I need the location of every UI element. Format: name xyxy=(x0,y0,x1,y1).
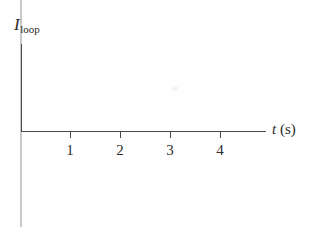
x-axis-tick-label-4: 4 xyxy=(209,141,231,159)
y-axis-label-symbol: I xyxy=(14,15,20,34)
x-axis-tick-3 xyxy=(170,131,171,138)
scan-speckle-artifact xyxy=(172,86,178,91)
x-axis-tick-label-1: 1 xyxy=(59,141,81,159)
x-axis-label-unit: (s) xyxy=(280,121,296,137)
y-axis-label-subscript: loop xyxy=(20,23,40,35)
x-axis-tick-2 xyxy=(120,131,121,138)
x-axis-tick-4 xyxy=(220,131,221,138)
x-axis-label-symbol: t xyxy=(272,121,276,137)
y-axis-line xyxy=(21,44,22,132)
x-axis-tick-label-2: 2 xyxy=(109,141,131,159)
x-axis-label: t (s) xyxy=(272,120,296,138)
y-axis-label: Iloop xyxy=(14,17,39,34)
x-axis-tick-1 xyxy=(70,131,71,138)
x-axis-line xyxy=(21,131,266,132)
figure-canvas: 1 2 3 4 Iloop t (s) xyxy=(0,0,319,227)
x-axis-tick-label-3: 3 xyxy=(159,141,181,159)
